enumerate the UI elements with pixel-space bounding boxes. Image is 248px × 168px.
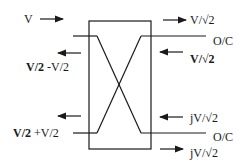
top-port-label: O/C (213, 34, 233, 48)
input-label: V (24, 12, 33, 26)
bottom-out-label: jV/√2 (189, 146, 218, 160)
top-out-label: V/√2 (190, 13, 215, 27)
bottom-back-label: jV/√2 (189, 111, 218, 125)
hybrid-coupler-diagram: V V/2 -V/2 V/2 +V/2 V/√2 O/C V/√2 jV/√2 … (0, 0, 248, 168)
bottom-port-label: O/C (213, 130, 233, 144)
top-reflect-label: V/2 -V/2 (26, 60, 69, 74)
top-back-label: V/√2 (190, 52, 215, 66)
bottom-reflect-label: V/2 +V/2 (13, 126, 59, 140)
